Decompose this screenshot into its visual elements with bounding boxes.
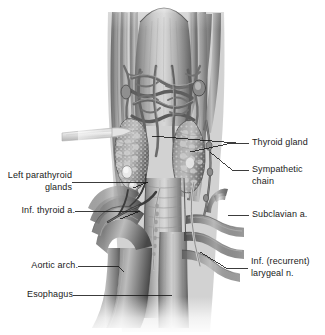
label-sympathetic-chain: Sympathetic chain xyxy=(252,164,303,187)
label-subclavian-a-text: Subclavian a. xyxy=(252,209,307,219)
label-inf-recurrent-laryngeal-line1: Inf. (recurrent) xyxy=(251,256,310,268)
label-sympathetic-chain-line1: Sympathetic xyxy=(252,164,303,176)
label-esophagus: Esophagus xyxy=(0,289,73,301)
label-inf-recurrent-laryngeal-line2: larygeal n. xyxy=(251,268,310,280)
label-inf-recurrent-laryngeal-n: Inf. (recurrent) larygeal n. xyxy=(251,256,310,279)
label-left-parathyroid-line2: glands xyxy=(0,182,72,194)
label-left-parathyroid-glands: Left parathyroid glands xyxy=(0,170,72,193)
label-aortic-arch: Aortic arch. xyxy=(0,260,78,272)
label-thyroid-gland: Thyroid gland xyxy=(252,137,308,149)
label-left-parathyroid-line1: Left parathyroid xyxy=(0,170,72,182)
label-inf-thyroid-a: Inf. thyroid a. xyxy=(0,205,75,217)
label-subclavian-a: Subclavian a. xyxy=(252,209,307,221)
label-sympathetic-chain-line2: chain xyxy=(252,176,303,188)
label-thyroid-gland-text: Thyroid gland xyxy=(252,137,308,147)
label-esophagus-text: Esophagus xyxy=(27,289,73,299)
label-aortic-arch-text: Aortic arch. xyxy=(31,260,78,270)
label-inf-thyroid-a-text: Inf. thyroid a. xyxy=(21,205,75,215)
